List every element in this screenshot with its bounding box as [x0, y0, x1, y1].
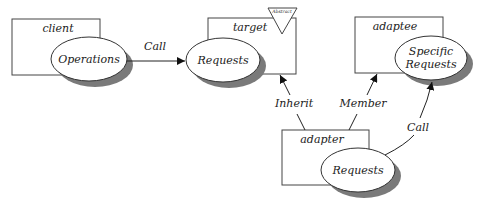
adapter-requests-label: Requests [331, 164, 383, 177]
target-requests-label: Requests [196, 54, 248, 67]
adapter-label: adapter [300, 133, 344, 146]
call-label-1: Call [144, 40, 166, 53]
inherit-label: Inherit [274, 97, 314, 110]
edge-adapter-member-adaptee: Member [338, 74, 387, 130]
member-label: Member [338, 97, 387, 110]
target-label: target [233, 21, 268, 34]
abstract-badge: Abstract [271, 9, 292, 14]
edge-adapter-call-adaptee: Call [385, 82, 432, 155]
adaptee-label: adaptee [373, 20, 418, 33]
requests-label-adaptee: Requests [404, 58, 456, 71]
edge-adapter-inherit-target: Inherit [274, 75, 314, 130]
client-label: client [42, 22, 74, 35]
edge-client-call-target: Call [127, 40, 185, 61]
adapter-node[interactable]: adapter Requests [282, 130, 401, 198]
adapter-pattern-diagram: client Operations Call target Abstract R… [0, 0, 485, 210]
call-label-2: Call [407, 121, 429, 134]
adaptee-node[interactable]: adaptee Specific Requests [355, 17, 473, 86]
specific-label: Specific [409, 45, 453, 58]
operations-label: Operations [58, 53, 120, 66]
client-node[interactable]: client Operations [12, 19, 133, 87]
